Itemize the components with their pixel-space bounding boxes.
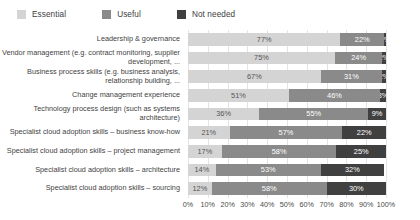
bar-value-label: 1% <box>384 36 386 43</box>
bar-value-label: 32% <box>345 166 360 173</box>
bar-value-label: 31% <box>344 73 359 80</box>
x-axis-tick-label: 50% <box>280 200 294 209</box>
bar-value-label: 24% <box>351 54 366 61</box>
bar-value-label: 77% <box>257 36 272 43</box>
bar-segment-notneeded[interactable]: 9% <box>368 108 386 120</box>
legend-swatch-icon <box>177 10 186 19</box>
bar-row[interactable]: 51%46%3% <box>188 89 386 101</box>
bar-segment-useful[interactable]: 58% <box>212 182 327 194</box>
bar-segment-notneeded[interactable]: 22% <box>342 126 386 138</box>
bar-segment-notneeded[interactable]: 30% <box>327 182 386 194</box>
x-axis-tick-label: 30% <box>240 200 254 209</box>
bar-rows: 77%22%1%75%24%2%67%31%2%51%46%3%36%55%9%… <box>188 30 386 198</box>
bar-value-label: 2% <box>382 54 386 61</box>
bar-value-label: 9% <box>372 110 383 117</box>
bar-value-label: 30% <box>349 185 364 192</box>
bar-value-label: 21% <box>201 129 216 136</box>
bar-value-label: 67% <box>247 73 262 80</box>
bar-segment-notneeded[interactable]: 3% <box>380 89 386 101</box>
plot-area: 77%22%1%75%24%2%67%31%2%51%46%3%36%55%9%… <box>188 30 386 198</box>
category-label: Specialist cloud adoption skills – sourc… <box>0 179 180 198</box>
bar-segment-useful[interactable]: 31% <box>321 70 382 82</box>
bar-segment-essential[interactable]: 75% <box>188 52 335 64</box>
bar-value-label: 57% <box>279 129 294 136</box>
category-label: Vendor management (e.g. contract monitor… <box>0 49 180 68</box>
category-label-text: Specialist cloud adoption skills – busin… <box>10 128 180 137</box>
x-axis-tick-label: 90% <box>359 200 373 209</box>
bar-value-label: 58% <box>262 185 277 192</box>
bar-segment-notneeded[interactable]: 2% <box>382 70 386 82</box>
category-label-text: Leadership & governance <box>97 35 180 44</box>
x-axis-tick-label: 0% <box>183 200 193 209</box>
category-label: Specialist cloud adoption skills – busin… <box>0 123 180 142</box>
bar-segment-essential[interactable]: 12% <box>188 182 212 194</box>
bar-row[interactable]: 12%58%30% <box>188 182 386 194</box>
bar-value-label: 2% <box>382 73 386 80</box>
bar-segment-essential[interactable]: 14% <box>188 164 216 176</box>
bar-value-label: 55% <box>306 110 321 117</box>
bar-segment-useful[interactable]: 57% <box>230 126 343 138</box>
bar-segment-useful[interactable]: 22% <box>340 33 384 45</box>
bar-segment-essential[interactable]: 51% <box>188 89 289 101</box>
bar-value-label: 12% <box>192 185 207 192</box>
stacked-bar-chart: EssentialUsefulNot needed Leadership & g… <box>0 0 420 220</box>
category-label-text: Specialist cloud adoption skills – archi… <box>35 166 180 175</box>
bar-row[interactable]: 17%58%25% <box>188 145 386 157</box>
bar-segment-notneeded[interactable]: 2% <box>382 52 386 64</box>
category-label: Specialist cloud adoption skills – archi… <box>0 161 180 180</box>
bar-segment-useful[interactable]: 24% <box>335 52 382 64</box>
x-axis-tick-label: 100% <box>377 200 395 209</box>
legend-swatch-icon <box>102 10 111 19</box>
bar-value-label: 46% <box>327 92 342 99</box>
legend-label: Essential <box>32 10 66 19</box>
bar-segment-useful[interactable]: 55% <box>259 108 368 120</box>
bar-segment-notneeded[interactable]: 32% <box>321 164 384 176</box>
bar-row[interactable]: 36%55%9% <box>188 108 386 120</box>
x-axis-tick-label: 20% <box>220 200 234 209</box>
bar-value-label: 22% <box>355 36 370 43</box>
category-label: Change management experience <box>0 86 180 105</box>
bar-segment-essential[interactable]: 67% <box>188 70 321 82</box>
gridline <box>386 30 387 198</box>
bar-segment-essential[interactable]: 21% <box>188 126 230 138</box>
bar-segment-useful[interactable]: 46% <box>289 89 380 101</box>
bar-row[interactable]: 75%24%2% <box>188 52 386 64</box>
bar-row[interactable]: 67%31%2% <box>188 70 386 82</box>
category-label-text: Technology process design (such as syste… <box>0 105 180 122</box>
category-label-text: Specialist cloud adoption skills – sourc… <box>46 184 180 193</box>
bar-row[interactable]: 77%22%1% <box>188 33 386 45</box>
bar-value-label: 75% <box>254 54 269 61</box>
bar-value-label: 58% <box>272 148 287 155</box>
bar-value-label: 3% <box>380 92 386 99</box>
legend-label: Not needed <box>192 10 235 19</box>
bar-segment-essential[interactable]: 77% <box>188 33 340 45</box>
legend-swatch-icon <box>17 10 26 19</box>
bar-segment-useful[interactable]: 53% <box>216 164 321 176</box>
x-axis-tick-label: 60% <box>300 200 314 209</box>
x-axis-tick-label: 40% <box>260 200 274 209</box>
bar-segment-notneeded[interactable]: 25% <box>336 145 386 157</box>
legend-label: Useful <box>117 10 141 19</box>
bar-row[interactable]: 21%57%22% <box>188 126 386 138</box>
bar-segment-useful[interactable]: 58% <box>222 145 337 157</box>
category-label-text: Vendor management (e.g. contract monitor… <box>0 49 180 66</box>
bar-value-label: 53% <box>261 166 276 173</box>
bar-segment-notneeded[interactable]: 1% <box>384 33 386 45</box>
bar-value-label: 17% <box>197 148 212 155</box>
bar-value-label: 14% <box>194 166 209 173</box>
category-axis-labels: Leadership & governanceVendor management… <box>0 30 184 198</box>
bar-segment-essential[interactable]: 17% <box>188 145 222 157</box>
category-label: Leadership & governance <box>0 30 180 49</box>
legend-essential[interactable]: Essential <box>17 10 66 19</box>
bar-row[interactable]: 14%53%32% <box>188 164 386 176</box>
category-label: Specialist cloud adoption skills – proje… <box>0 142 180 161</box>
chart-legend: EssentialUsefulNot needed <box>17 7 271 21</box>
legend-not-needed[interactable]: Not needed <box>177 10 235 19</box>
legend-useful[interactable]: Useful <box>102 10 141 19</box>
x-axis-tick-label: 10% <box>201 200 215 209</box>
category-label: Business process skills (e.g. business a… <box>0 67 180 86</box>
bar-value-label: 25% <box>354 148 369 155</box>
category-label-text: Change management experience <box>72 91 180 100</box>
bar-segment-essential[interactable]: 36% <box>188 108 259 120</box>
x-axis-tick-label: 80% <box>339 200 353 209</box>
